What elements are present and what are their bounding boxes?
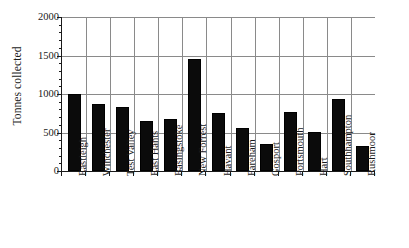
y-axis-title: Tonnes collected (11, 46, 23, 125)
x-label-cell: Southhampton (326, 176, 350, 248)
x-label-cell: Test Valley (109, 176, 133, 248)
x-axis-category-label: Eastleigh (78, 137, 88, 176)
y-axis-tick-label: 0 (31, 166, 59, 176)
x-label-cell: Portsmouth (278, 176, 302, 248)
y-axis-tick-label: 1500 (31, 51, 59, 61)
bar-cell (303, 17, 327, 171)
x-axis-category-label: Fareham (246, 139, 256, 176)
x-axis-category-label: East Hants (150, 131, 160, 176)
x-axis-category-label: Southhampton (342, 115, 352, 176)
x-label-cell: Eastleigh (61, 176, 85, 248)
y-axis-tick-label: 2000 (31, 12, 59, 22)
x-label-cell: New Forrest (181, 176, 205, 248)
x-axis-category-label: New Forrest (198, 124, 208, 176)
x-label-cell: East Hants (133, 176, 157, 248)
x-axis-category-label: Test Valley (126, 129, 136, 176)
x-axis-category-label: Portsmouth (294, 128, 304, 176)
x-label-cell: Winchester (85, 176, 109, 248)
x-axis-category-label: Rushmoor (366, 132, 376, 176)
x-axis-category-label: Basingstoke (174, 125, 184, 176)
x-label-cell: Havant (205, 176, 229, 248)
x-axis-category-labels: EastleighWinchesterTest ValleyEast Hants… (61, 176, 374, 248)
y-axis-tick-label: 1000 (31, 89, 59, 99)
x-axis-category-label: Havant (222, 146, 232, 176)
x-label-cell: Basingstoke (157, 176, 181, 248)
y-axis-tick-label: 500 (31, 128, 59, 138)
x-axis-category-label: Gosport (270, 142, 280, 176)
x-axis-category-label: Hart (318, 157, 328, 176)
x-label-cell: Hart (302, 176, 326, 248)
y-axis-tick-labels: 0500100015002000 (30, 0, 59, 248)
x-label-cell: Rushmoor (350, 176, 374, 248)
x-label-cell: Gosport (254, 176, 278, 248)
x-axis-category-label: Winchester (102, 129, 112, 176)
y-axis-title-container: Tonnes collected (0, 0, 34, 172)
x-label-cell: Fareham (230, 176, 254, 248)
bar-chart-figure: Tonnes collected 0500100015002000 Eastle… (0, 0, 409, 248)
